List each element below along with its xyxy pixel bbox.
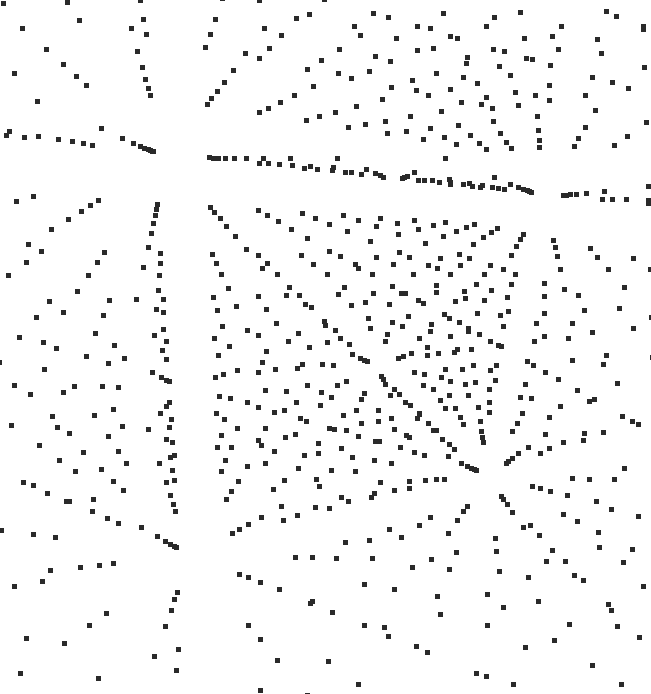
lattice-figure: Perspective view of a 3D cubic lattice o… bbox=[0, 0, 651, 694]
point-lattice-canvas bbox=[0, 0, 651, 694]
